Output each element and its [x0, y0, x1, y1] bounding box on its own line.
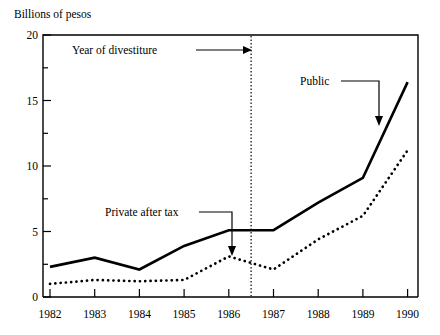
- x-tick-label-1984: 1984: [128, 308, 151, 320]
- annotation-label-year-of-divestiture: Year of divestiture: [72, 44, 157, 56]
- annotation-label-public: Public: [300, 75, 329, 87]
- x-tick-label-1986: 1986: [217, 308, 240, 320]
- x-tick-label-1985: 1985: [173, 308, 196, 320]
- x-tick-label-1987: 1987: [262, 308, 285, 320]
- y-tick-label-15: 15: [27, 95, 39, 107]
- y-axis-title: Billions of pesos: [14, 8, 92, 21]
- y-tick-label-20: 20: [27, 29, 39, 41]
- chart-figure: Billions of pesos 20 15 10 5 0: [0, 0, 440, 335]
- chart-container: Billions of pesos 20 15 10 5 0: [0, 0, 440, 335]
- x-tick-label-1988: 1988: [307, 308, 330, 320]
- x-tick-label-1982: 1982: [39, 308, 62, 320]
- x-tick-label-1989: 1989: [351, 308, 374, 320]
- x-tick-label-1990: 1990: [396, 308, 419, 320]
- x-tick-label-1983: 1983: [83, 308, 106, 320]
- y-tick-label-5: 5: [32, 226, 38, 238]
- y-tick-label-0: 0: [32, 291, 38, 303]
- y-tick-label-10: 10: [27, 160, 39, 172]
- annotation-label-private-after-tax: Private after tax: [105, 206, 179, 218]
